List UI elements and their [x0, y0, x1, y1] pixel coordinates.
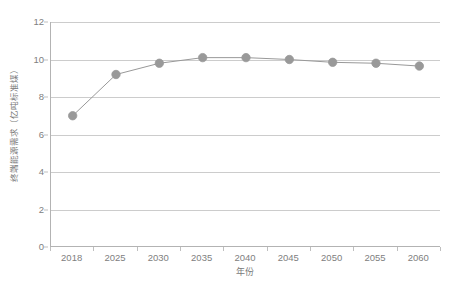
y-axis-tick-mark	[44, 247, 48, 248]
x-axis-tick-label: 2030	[148, 253, 169, 263]
series-line-path	[51, 22, 441, 247]
x-axis-tick-labels: 201820252030203520402045205020552060	[50, 247, 440, 267]
data-point-marker	[285, 55, 293, 63]
x-axis-tick-label: 2055	[364, 253, 385, 263]
y-axis-tick-mark	[44, 59, 48, 60]
data-point-marker	[372, 59, 380, 67]
data-point-marker	[328, 58, 336, 66]
y-axis-tick-mark	[44, 134, 48, 135]
x-axis-tick-mark	[137, 247, 138, 251]
x-axis-tick-mark	[180, 247, 181, 251]
y-axis-tick-label: 12	[33, 17, 44, 27]
x-axis-tick-mark	[93, 247, 94, 251]
x-axis-tick-mark	[223, 247, 224, 251]
x-axis-tick-mark	[267, 247, 268, 251]
x-axis-tick-label: 2035	[191, 253, 212, 263]
x-axis-title: 年份	[50, 268, 440, 277]
x-axis-tick-mark	[440, 247, 441, 251]
data-point-marker	[415, 62, 423, 70]
line-chart: 终端能源需求（亿吨标准煤） 024681012 2018202520302035…	[0, 0, 456, 291]
y-axis-tick-label: 10	[33, 55, 44, 65]
x-axis-tick-label: 2018	[61, 253, 82, 263]
x-axis-tick-label: 2045	[278, 253, 299, 263]
series-line	[73, 58, 420, 116]
data-point-marker	[112, 70, 120, 78]
y-axis-tick-mark	[44, 209, 48, 210]
y-axis-title-text: 终端能源需求（亿吨标准煤）	[10, 65, 19, 182]
y-axis-title: 终端能源需求（亿吨标准煤）	[2, 0, 26, 247]
x-axis-tick-mark	[353, 247, 354, 251]
x-axis-tick-label: 2060	[408, 253, 429, 263]
x-axis-tick-label: 2040	[234, 253, 255, 263]
y-axis-tick-mark	[44, 22, 48, 23]
y-axis-tick-labels: 024681012	[26, 22, 48, 247]
y-axis-tick-mark	[44, 172, 48, 173]
x-axis-tick-label: 2050	[321, 253, 342, 263]
x-axis-tick-label: 2025	[104, 253, 125, 263]
x-axis-tick-mark	[397, 247, 398, 251]
x-axis-tick-mark	[310, 247, 311, 251]
data-point-marker	[155, 59, 163, 67]
data-point-marker	[242, 53, 250, 61]
x-axis-tick-mark	[50, 247, 51, 251]
data-point-marker	[198, 53, 206, 61]
data-point-marker	[68, 112, 76, 120]
plot-area	[50, 22, 440, 247]
y-axis-tick-mark	[44, 97, 48, 98]
